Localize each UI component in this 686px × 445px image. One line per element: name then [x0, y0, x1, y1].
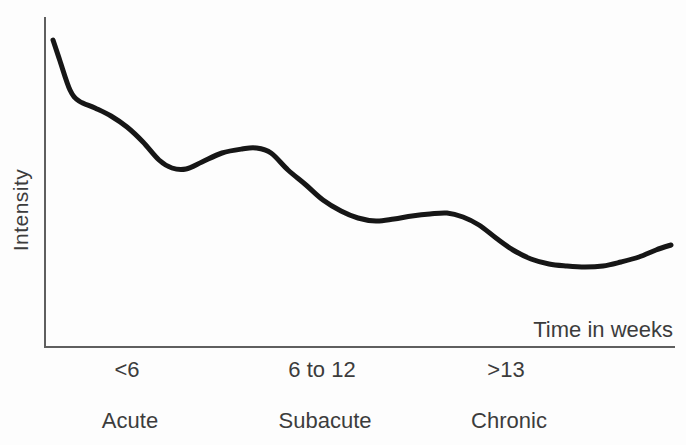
x-tick-label-under-6: <6 [114, 357, 139, 383]
phase-label-acute: Acute [102, 408, 158, 434]
y-axis-label: Intensity [9, 169, 33, 252]
y-axis-line [44, 17, 46, 347]
intensity-over-time-figure: Intensity Time in weeks <6 6 to 12 >13 A… [0, 0, 686, 445]
x-tick-label-over-13: >13 [487, 357, 524, 383]
x-axis-line [44, 346, 675, 348]
x-tick-label-6-to-12: 6 to 12 [288, 357, 355, 383]
phase-label-subacute: Subacute [279, 408, 372, 434]
phase-label-chronic: Chronic [471, 408, 547, 434]
x-axis-title: Time in weeks [533, 317, 673, 343]
curve-path [53, 40, 671, 267]
